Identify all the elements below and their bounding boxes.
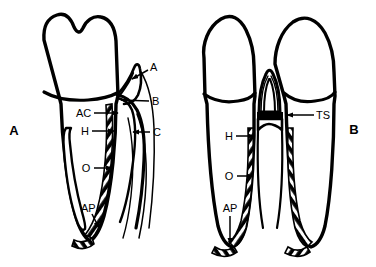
label-o-text-b: O <box>225 170 234 182</box>
panel-letter-b: B <box>349 122 358 137</box>
label-ap-text-a: AP <box>81 202 96 214</box>
label-ap-text-b: AP <box>223 202 238 214</box>
label-a-text: A <box>150 61 158 73</box>
label-ts-text: TS <box>316 109 330 121</box>
label-b-text: B <box>152 95 159 107</box>
label-h-text-a: H <box>81 125 89 137</box>
label-b-arrow <box>121 100 149 101</box>
label-h-text-b: H <box>225 130 233 142</box>
label-ac-text: AC <box>76 107 91 119</box>
panel-letter-a: A <box>9 123 19 138</box>
figure-canvas: A A B AC H C O AP <box>0 0 376 267</box>
label-o-text-a: O <box>82 162 91 174</box>
dental-anatomy-figure: A A B AC H C O AP <box>0 0 376 267</box>
label-c-text: C <box>153 126 161 138</box>
